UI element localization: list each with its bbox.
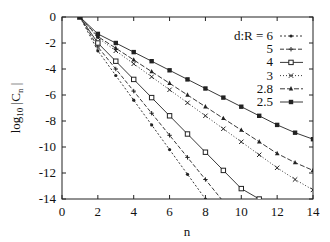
x-tick-label: 4 <box>130 204 137 219</box>
x-tick-label: 2 <box>95 204 102 219</box>
chart: 024681012140-2-4-6-8-10-12-14 d:R = 6543… <box>0 0 330 242</box>
y-tick-label: -12 <box>39 165 56 180</box>
y-tick-label: -8 <box>45 113 56 128</box>
y-tick-label: -2 <box>45 35 56 50</box>
y-axis-label: log10 |Cn | <box>8 83 25 134</box>
x-tick-label: 10 <box>235 204 248 219</box>
y-tick-label: -10 <box>39 139 56 154</box>
legend: d:R = 65432.82.5 <box>234 28 303 109</box>
y-tick-label: -6 <box>45 87 56 102</box>
x-tick-label: 14 <box>307 204 321 219</box>
series-2.5 <box>78 15 315 142</box>
axes: 024681012140-2-4-6-8-10-12-14 <box>39 9 320 219</box>
x-tick-label: 12 <box>271 204 284 219</box>
y-tick-label: -14 <box>39 191 57 206</box>
series-lines <box>78 14 315 204</box>
legend-label: 2.5 <box>257 94 273 109</box>
series-2.8 <box>78 14 315 172</box>
y-tick-label: -4 <box>45 61 56 76</box>
x-tick-label: 0 <box>59 204 66 219</box>
x-tick-label: 8 <box>202 204 209 219</box>
x-axis-label: n <box>184 224 191 239</box>
y-tick-label: 0 <box>50 9 57 24</box>
x-tick-label: 6 <box>166 204 173 219</box>
svg-text:log10 |Cn |: log10 |Cn | <box>8 83 25 134</box>
